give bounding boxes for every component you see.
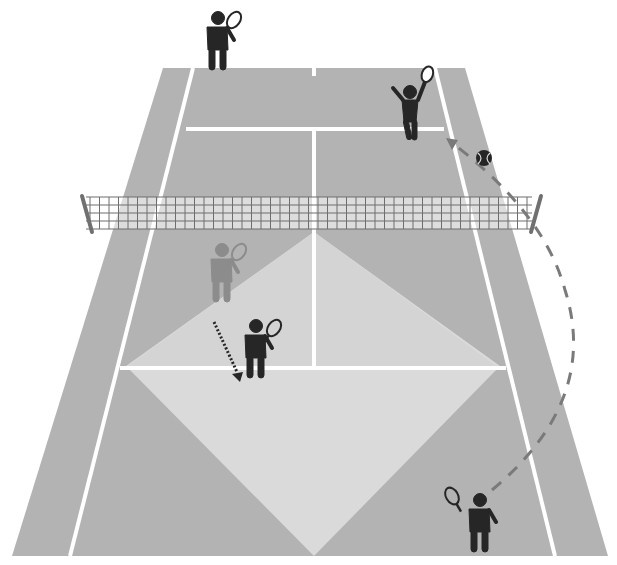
court-svg [0,0,617,565]
tennis-court-diagram [0,0,617,565]
net [82,196,541,232]
player-far-left-icon [207,9,244,70]
